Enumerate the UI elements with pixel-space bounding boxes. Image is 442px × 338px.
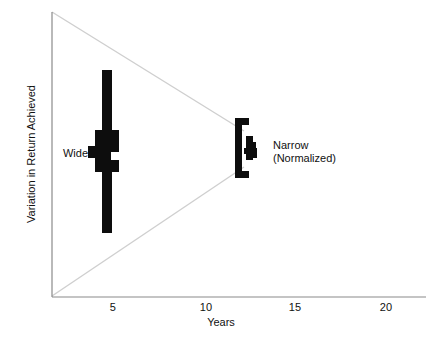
envelope-lower-line [52,167,244,296]
narrow-marker-label: Narrow (Normalized) [273,139,336,165]
x-tick-label-5: 5 [93,301,133,313]
y-axis-title: Variation in Return Achieved [25,44,37,264]
x-tick-label-10: 10 [186,301,226,313]
narrow-marker [235,118,257,178]
wide-marker [88,70,119,233]
envelope-upper-line [52,12,244,131]
narrow-marker-label-line2: (Normalized) [273,152,336,165]
x-tick-label-15: 15 [275,301,315,313]
x-axis-title: Years [0,316,442,328]
wide-marker-label: Wide [58,147,88,160]
narrow-marker-label-line1: Narrow [273,139,336,152]
chart-container: 5 10 15 20 Years Variation in Return Ach… [0,0,442,338]
x-tick-label-20: 20 [366,301,406,313]
chart-plot-area [0,0,442,338]
